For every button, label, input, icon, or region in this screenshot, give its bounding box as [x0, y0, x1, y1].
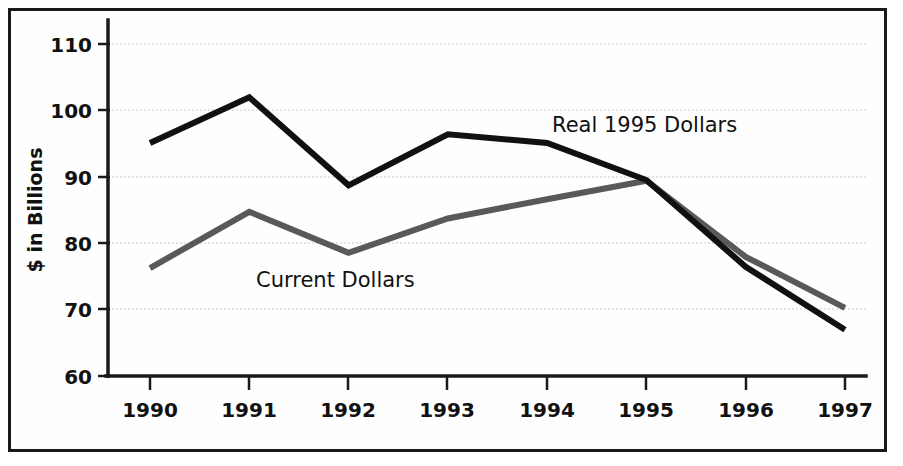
x-tick-label-1995: 1995 [618, 398, 674, 422]
line-chart: 110 100 90 80 70 60 $ in Billions 1990 1… [0, 0, 903, 466]
x-tick-label-1991: 1991 [221, 398, 277, 422]
x-tick-label-1990: 1990 [122, 398, 178, 422]
y-tick-labels: 110 100 90 80 70 60 [50, 33, 92, 389]
axes [106, 20, 866, 376]
y-tick-label-100: 100 [50, 99, 92, 123]
series-label-current-dollars: Current Dollars [256, 268, 415, 292]
x-tick-label-1997: 1997 [817, 398, 873, 422]
x-tick-labels: 1990 1991 1992 1993 1994 1995 1996 1997 [122, 398, 873, 422]
y-axis-title: $ in Billions [24, 148, 46, 273]
series-line-current-dollars [150, 181, 845, 308]
x-tick-label-1996: 1996 [718, 398, 774, 422]
y-tick-label-80: 80 [64, 232, 92, 256]
x-tick-label-1994: 1994 [519, 398, 575, 422]
x-tickmarks [150, 376, 845, 390]
x-tick-label-1993: 1993 [419, 398, 475, 422]
y-tick-label-90: 90 [64, 166, 92, 190]
y-tick-label-70: 70 [64, 298, 92, 322]
series-label-real-1995-dollars: Real 1995 Dollars [552, 113, 737, 137]
chart-page: 110 100 90 80 70 60 $ in Billions 1990 1… [0, 0, 903, 466]
y-tick-label-110: 110 [50, 33, 92, 57]
y-tick-label-60: 60 [64, 365, 92, 389]
x-tick-label-1992: 1992 [320, 398, 376, 422]
series-group [150, 97, 845, 329]
